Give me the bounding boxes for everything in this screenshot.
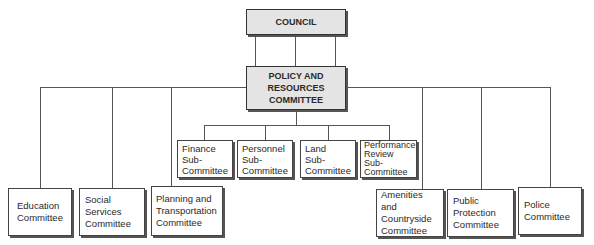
label-line: Countryside (381, 213, 439, 225)
public-protection-committee-box: Public Protection Committee (447, 189, 514, 237)
connector-public (481, 87, 482, 189)
sub-committee-bar (204, 125, 389, 126)
label-line: Amenities and (381, 189, 439, 213)
label-line: Committee (156, 217, 218, 229)
label-line: Finance (182, 143, 228, 154)
label-line: Police (524, 199, 576, 211)
label-line: Committee (85, 218, 139, 230)
planning-transportation-committee-box: Planning and Transportation Committee (151, 186, 223, 236)
label-line: Committee (17, 212, 66, 224)
council-box: COUNCIL (246, 9, 346, 35)
connector-planning (171, 87, 172, 186)
police-committee-box: Police Committee (518, 187, 582, 235)
personnel-sub-committee-box: Personnel Sub- Committee (237, 140, 293, 178)
label-line: Committee (182, 165, 228, 176)
connector-social (112, 87, 113, 188)
label-line: Education (17, 200, 66, 212)
label-line: Social (85, 194, 139, 206)
label-line: Public (453, 195, 508, 207)
connector-amenities (422, 87, 423, 189)
education-committee-box: Education Committee (8, 188, 72, 236)
social-services-committee-box: Social Services Committee (79, 188, 145, 236)
label-line: Transportation (156, 205, 218, 217)
label-line: Planning and (156, 193, 218, 205)
council-connector-center (295, 35, 296, 66)
label-line: Protection (453, 207, 508, 219)
performance-review-sub-committee-box: Performance Review Sub- Committee (360, 140, 417, 178)
label-line: Sub- (305, 154, 351, 165)
policy-line-1: POLICY AND (268, 70, 323, 82)
label-line: Land (305, 143, 351, 154)
policy-resources-box: POLICY AND RESOURCES COMMITTEE (246, 66, 346, 110)
label-line: Personnel (242, 143, 288, 154)
label-line: Committee (381, 225, 439, 237)
label-line: Committee (305, 165, 351, 176)
council-label: COUNCIL (276, 16, 317, 28)
label-line: Committee (453, 219, 508, 231)
label-line: Sub- (182, 154, 228, 165)
label-line: Committee (364, 168, 413, 177)
label-line: Committee (242, 165, 288, 176)
connector-education (40, 87, 41, 188)
connector-police (550, 87, 551, 187)
connector-land (328, 125, 329, 140)
label-line: Services (85, 206, 139, 218)
connector-performance (389, 125, 390, 140)
amenities-countryside-committee-box: Amenities and Countryside Committee (376, 189, 444, 237)
connector-personnel (265, 125, 266, 140)
policy-down-connector (296, 110, 297, 125)
land-sub-committee-box: Land Sub- Committee (300, 140, 356, 178)
label-line: Committee (524, 211, 576, 223)
connector-finance (204, 125, 205, 140)
label-line: Sub- (242, 154, 288, 165)
policy-line-2: RESOURCES (267, 82, 324, 94)
policy-line-3: COMMITTEE (269, 94, 323, 106)
finance-sub-committee-box: Finance Sub- Committee (177, 140, 233, 178)
